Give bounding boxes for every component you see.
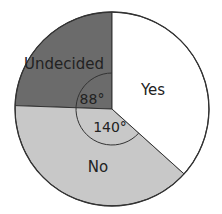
- label-yes: Yes: [140, 81, 165, 99]
- pie-chart: Yes Undecided No 88° 140°: [0, 0, 222, 214]
- pie-slices: [15, 12, 209, 206]
- label-undecided: Undecided: [24, 55, 104, 73]
- label-no: No: [88, 158, 108, 176]
- angle-label-no: 140°: [93, 119, 127, 135]
- angle-label-undecided: 88°: [80, 91, 105, 107]
